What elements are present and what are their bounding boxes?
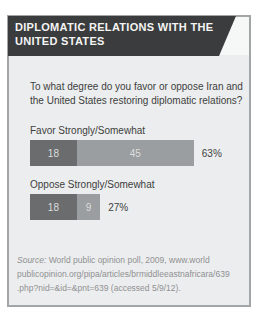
panel-title-line2: UNITED STATES [15, 35, 236, 49]
panel-header-row: DIPLOMATIC RELATIONS WITH THE UNITED STA… [9, 17, 249, 55]
oppose-total-label: 27% [108, 202, 128, 213]
oppose-segment-strongly: 18 [30, 194, 77, 220]
oppose-segment-somewhat: 9 [77, 194, 100, 220]
favor-bar: 18 45 63% [30, 140, 222, 166]
panel-title-line1: DIPLOMATIC RELATIONS WITH THE [15, 21, 236, 35]
poll-panel: DIPLOMATIC RELATIONS WITH THE UNITED STA… [7, 15, 251, 307]
source-line1-rest: World public opinion poll, 2009, www.wor… [46, 255, 209, 265]
favor-segment-somewhat: 45 [77, 140, 194, 166]
source-line1: Source: World public opinion poll, 2009,… [17, 253, 230, 267]
source-line3: .php?nid=&id=&pnt=639 (accessed 5/9/12). [17, 281, 230, 295]
oppose-bar: 18 9 27% [30, 194, 128, 220]
source-prefix: Source: [17, 255, 46, 265]
source-note: Source: World public opinion poll, 2009,… [17, 253, 230, 295]
poll-question-line1: To what degree do you favor or oppose Ir… [30, 80, 243, 94]
favor-segment-strongly: 18 [30, 140, 77, 166]
poll-question-line2: the United States restoring diplomatic r… [30, 94, 243, 108]
poll-question: To what degree do you favor or oppose Ir… [30, 80, 243, 108]
favor-total-label: 63% [202, 148, 222, 159]
oppose-bar-label: Oppose Strongly/Somewhat [30, 179, 155, 190]
favor-bar-label: Favor Strongly/Somewhat [30, 125, 145, 136]
panel-header-banner: DIPLOMATIC RELATIONS WITH THE UNITED STA… [8, 16, 236, 56]
source-line2: publicopinion.org/pipa/articles/brmiddle… [17, 267, 230, 281]
